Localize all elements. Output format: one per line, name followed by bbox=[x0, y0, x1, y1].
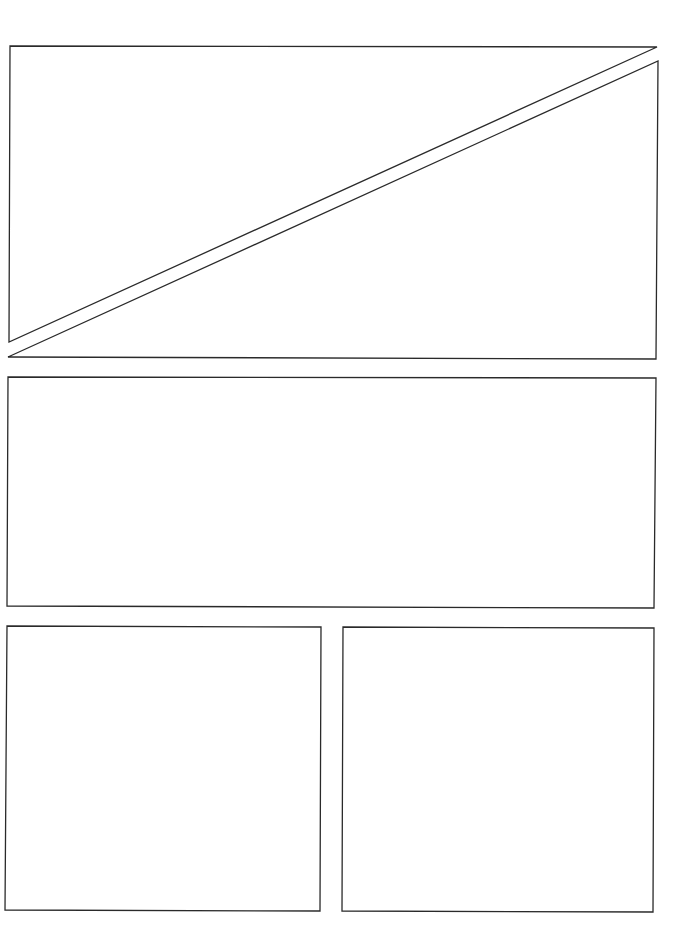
panel-bottom-left bbox=[5, 626, 321, 911]
comic-page bbox=[0, 0, 688, 949]
panel-bottom-right bbox=[342, 627, 654, 912]
panel-middle-wide bbox=[7, 377, 656, 608]
